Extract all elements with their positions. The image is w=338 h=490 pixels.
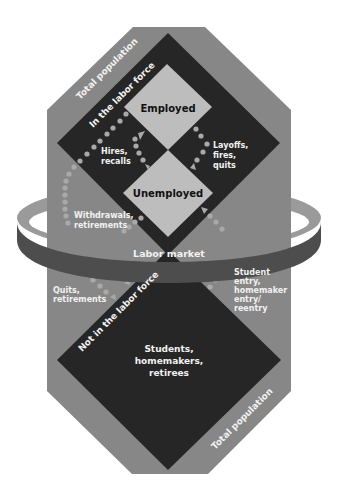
unemployed-label: Unemployed bbox=[133, 188, 203, 199]
svg-text:reentry: reentry bbox=[234, 304, 268, 313]
svg-text:Student: Student bbox=[234, 268, 270, 277]
labor-market-label: Labor market bbox=[133, 248, 205, 259]
svg-text:recalls: recalls bbox=[101, 157, 131, 166]
svg-text:entry,: entry, bbox=[234, 277, 261, 286]
svg-text:Withdrawals,: Withdrawals, bbox=[74, 211, 134, 220]
hires-label: Hires, recalls bbox=[101, 147, 131, 166]
svg-text:Hires,: Hires, bbox=[101, 147, 128, 156]
svg-text:Layoffs,: Layoffs, bbox=[213, 141, 248, 150]
svg-text:homemaker: homemaker bbox=[234, 286, 287, 295]
svg-text:retirements: retirements bbox=[53, 295, 107, 304]
employed-label: Employed bbox=[140, 103, 195, 114]
svg-text:Students,: Students, bbox=[144, 344, 193, 354]
svg-text:retirees: retirees bbox=[149, 368, 189, 378]
svg-text:fires,: fires, bbox=[213, 151, 236, 160]
labor-market-diagram: Total population In the labor force Not … bbox=[0, 0, 338, 490]
withdrawals-label: Withdrawals, retirements bbox=[74, 211, 134, 230]
svg-text:retirements: retirements bbox=[74, 221, 128, 230]
svg-text:quits: quits bbox=[213, 161, 236, 170]
svg-text:entry/: entry/ bbox=[234, 295, 261, 304]
svg-text:homemakers,: homemakers, bbox=[135, 356, 204, 366]
svg-text:Quits,: Quits, bbox=[53, 286, 80, 295]
